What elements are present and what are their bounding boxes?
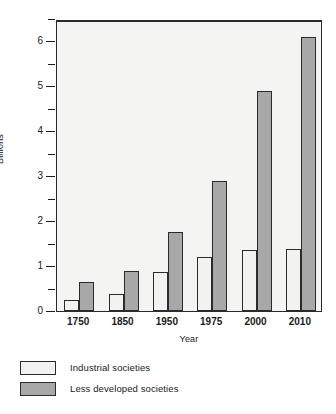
bar[interactable] — [79, 282, 94, 311]
y-axis-tick-label: 6 — [37, 35, 43, 46]
legend-swatch — [20, 361, 56, 375]
y-axis-tick-label: 2 — [37, 215, 43, 226]
y-axis-tick-label: 5 — [37, 80, 43, 91]
bar[interactable] — [242, 250, 257, 311]
plot-area — [57, 22, 321, 311]
tick-mark — [46, 41, 55, 42]
tick-mark — [48, 154, 55, 155]
tick-mark — [48, 19, 55, 20]
x-axis-tick-label: 1975 — [200, 316, 222, 327]
bar[interactable] — [286, 249, 301, 311]
tick-mark — [46, 221, 55, 222]
bar-group — [64, 22, 94, 311]
y-axis-tick-label: 4 — [37, 125, 43, 136]
legend-swatch — [20, 382, 56, 396]
tick-mark — [48, 244, 55, 245]
legend-item[interactable]: Industrial societies — [20, 357, 320, 378]
bar[interactable] — [168, 232, 183, 311]
bar[interactable] — [197, 257, 212, 311]
bar-group — [109, 22, 139, 311]
tick-mark — [46, 131, 55, 132]
bar-group — [286, 22, 316, 311]
bar[interactable] — [301, 37, 316, 311]
tick-mark — [46, 266, 55, 267]
bar[interactable] — [64, 300, 79, 311]
tick-mark — [48, 199, 55, 200]
bar[interactable] — [257, 91, 272, 311]
y-axis-title: Billions — [0, 114, 5, 184]
tick-mark — [46, 176, 55, 177]
tick-mark — [48, 289, 55, 290]
plot-frame — [56, 20, 322, 312]
x-axis-tick-label: 1750 — [67, 316, 89, 327]
x-axis: 175018501950197520002010 — [56, 314, 322, 330]
bar[interactable] — [153, 272, 168, 311]
tick-mark — [46, 311, 55, 312]
tick-mark — [48, 109, 55, 110]
bar[interactable] — [212, 181, 227, 311]
legend-label: Less developed societies — [70, 383, 179, 394]
legend-label: Industrial societies — [70, 362, 150, 373]
bar-group — [153, 22, 183, 311]
y-axis-tick-label: 1 — [37, 260, 43, 271]
bar[interactable] — [124, 271, 139, 311]
x-axis-tick-label: 2010 — [289, 316, 311, 327]
x-axis-tick-label: 1950 — [156, 316, 178, 327]
legend-item[interactable]: Less developed societies — [20, 378, 320, 399]
bar[interactable] — [109, 294, 124, 311]
x-axis-title: Year — [56, 334, 322, 344]
x-axis-tick-label: 2000 — [244, 316, 266, 327]
x-axis-tick-label: 1850 — [111, 316, 133, 327]
tick-mark — [48, 64, 55, 65]
y-axis: 0123456 — [27, 18, 55, 314]
population-bar-chart: Billions 0123456 17501850195019752000201… — [0, 0, 336, 414]
y-axis-tick-label: 0 — [37, 305, 43, 316]
chart-legend: Industrial societiesLess developed socie… — [20, 357, 320, 399]
tick-mark — [46, 86, 55, 87]
y-axis-tick-label: 3 — [37, 170, 43, 181]
bar-group — [242, 22, 272, 311]
bar-group — [197, 22, 227, 311]
